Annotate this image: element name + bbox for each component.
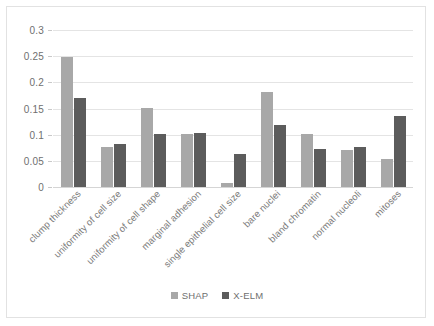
y-axis-tick-label: 0 xyxy=(38,182,44,193)
x-axis-labels: clump thicknessuniformity of cell sizeun… xyxy=(53,188,413,276)
bar-x-elm[interactable] xyxy=(234,154,246,187)
bar-x-elm[interactable] xyxy=(114,144,126,187)
bar-group xyxy=(173,30,213,187)
bar-x-elm[interactable] xyxy=(154,134,166,187)
y-axis-tick xyxy=(48,109,52,110)
bar-group xyxy=(253,30,293,187)
legend-item-x-elm[interactable]: X-ELM xyxy=(222,290,263,301)
y-axis-tick xyxy=(48,135,52,136)
bar-shap[interactable] xyxy=(301,134,313,187)
bar-group xyxy=(93,30,133,187)
y-axis-tick-label: 0.3 xyxy=(29,25,44,36)
x-axis-category-label: mitoses xyxy=(371,188,402,219)
bar-shap[interactable] xyxy=(261,92,273,187)
y-axis-tick xyxy=(48,187,52,188)
legend-label: X-ELM xyxy=(233,290,263,301)
x-axis-category-label: uniformity of cell size xyxy=(51,188,123,260)
legend-swatch-icon xyxy=(171,292,178,299)
bar-x-elm[interactable] xyxy=(274,125,286,187)
bar-group xyxy=(213,30,253,187)
bar-shap[interactable] xyxy=(221,183,233,187)
chart-container: 00.050.10.150.20.250.3 clump thicknessun… xyxy=(6,6,426,318)
bar-x-elm[interactable] xyxy=(354,147,366,187)
x-axis-category-label: uniformity of cell shape xyxy=(85,188,163,266)
y-axis-tick-label: 0.2 xyxy=(29,77,44,88)
bar-group xyxy=(133,30,173,187)
y-axis-tick xyxy=(48,82,52,83)
bar-shap[interactable] xyxy=(141,108,153,187)
y-axis-tick-label: 0.1 xyxy=(29,129,44,140)
bar-group xyxy=(333,30,373,187)
legend-item-shap[interactable]: SHAP xyxy=(171,290,209,301)
bar-shap[interactable] xyxy=(341,150,353,187)
y-axis-tick-label: 0.05 xyxy=(24,155,44,166)
plot-area xyxy=(53,30,413,187)
y-axis-labels: 00.050.10.150.20.250.3 xyxy=(7,30,47,187)
bar-group xyxy=(293,30,333,187)
legend-swatch-icon xyxy=(222,292,229,299)
bar-group xyxy=(53,30,93,187)
y-axis-tick xyxy=(48,161,52,162)
bar-shap[interactable] xyxy=(381,159,393,187)
bar-shap[interactable] xyxy=(61,57,73,187)
bar-x-elm[interactable] xyxy=(74,98,86,187)
y-axis-tick xyxy=(48,56,52,57)
x-axis-category-label: single epithelial cell size xyxy=(161,188,242,269)
bar-group xyxy=(373,30,413,187)
legend-label: SHAP xyxy=(182,290,209,301)
bar-shap[interactable] xyxy=(101,147,113,187)
x-axis-category-label: bare nuclei xyxy=(241,188,282,229)
bar-shap[interactable] xyxy=(181,134,193,187)
bar-x-elm[interactable] xyxy=(314,149,326,187)
bar-x-elm[interactable] xyxy=(394,116,406,187)
chart-legend: SHAPX-ELM xyxy=(7,290,427,301)
y-axis-tick-label: 0.15 xyxy=(24,103,44,114)
y-axis-tick-label: 0.25 xyxy=(24,51,44,62)
y-axis-tick xyxy=(48,30,52,31)
bar-x-elm[interactable] xyxy=(194,133,206,187)
